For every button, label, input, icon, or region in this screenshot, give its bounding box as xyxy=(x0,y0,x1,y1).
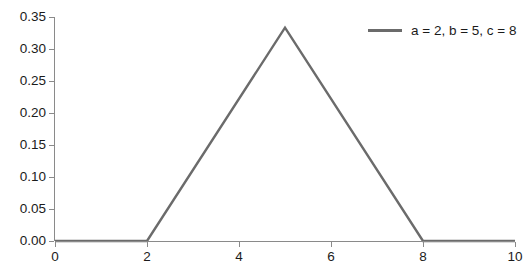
y-tick-label: 0.35 xyxy=(2,10,46,24)
y-tick-mark xyxy=(49,49,54,50)
y-tick-label: 0.20 xyxy=(2,106,46,120)
x-tick-label: 8 xyxy=(403,250,443,264)
y-tick-mark xyxy=(49,81,54,82)
chart-legend: a = 2, b = 5, c = 8 xyxy=(368,24,516,38)
y-tick-label: 0.30 xyxy=(2,42,46,56)
y-tick-mark xyxy=(49,113,54,114)
x-tick-mark xyxy=(423,242,424,247)
x-tick-label: 6 xyxy=(311,250,351,264)
y-tick-label: 0.25 xyxy=(2,74,46,88)
x-axis-spine xyxy=(55,241,515,242)
x-tick-label: 4 xyxy=(219,250,259,264)
x-tick-label: 0 xyxy=(35,250,75,264)
y-tick-label: 0.10 xyxy=(2,170,46,184)
y-tick-label: 0.15 xyxy=(2,138,46,152)
data-series-svg xyxy=(55,17,515,241)
chart-container: 0.000.050.100.150.200.250.300.35 0246810… xyxy=(0,0,526,273)
x-tick-mark xyxy=(55,242,56,247)
legend-color-swatch xyxy=(368,29,402,32)
plot-area xyxy=(55,17,515,241)
x-tick-mark xyxy=(331,242,332,247)
series-line-triangular xyxy=(55,28,515,241)
x-tick-mark xyxy=(147,242,148,247)
y-tick-label: 0.05 xyxy=(2,202,46,216)
x-tick-label: 2 xyxy=(127,250,167,264)
x-tick-label: 10 xyxy=(495,250,526,264)
y-tick-mark xyxy=(49,17,54,18)
y-tick-mark xyxy=(49,241,54,242)
legend-entry-label: a = 2, b = 5, c = 8 xyxy=(411,24,516,38)
y-tick-label: 0.00 xyxy=(2,234,46,248)
x-tick-mark xyxy=(239,242,240,247)
y-tick-mark xyxy=(49,145,54,146)
y-tick-mark xyxy=(49,209,54,210)
y-tick-mark xyxy=(49,177,54,178)
x-tick-mark xyxy=(515,242,516,247)
